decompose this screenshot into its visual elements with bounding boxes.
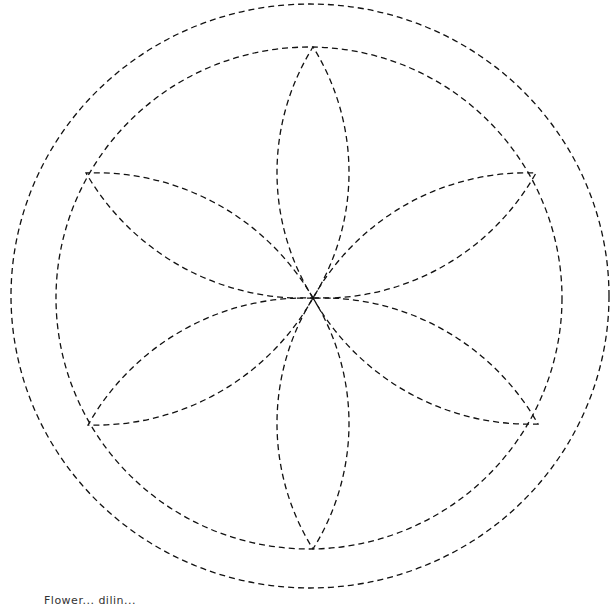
outer-circle [11, 4, 609, 588]
petal-upper-left [86, 173, 313, 298]
figure-caption: Flower... dilin... [44, 594, 136, 607]
petal-upper-right [313, 173, 536, 298]
petal-lower-left [88, 298, 313, 425]
petal-group [86, 47, 538, 549]
petal-lower-right [313, 298, 538, 424]
